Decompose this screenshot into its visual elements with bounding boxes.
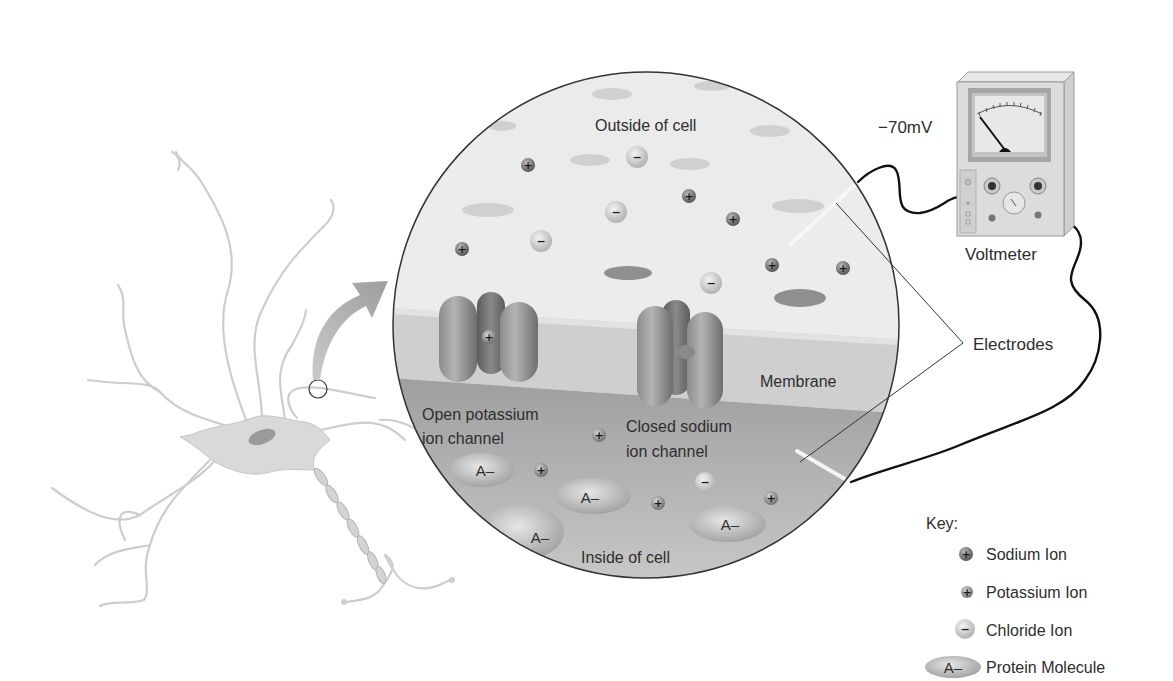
svg-text:+: +	[457, 243, 466, 256]
resting-potential-diagram: + + + + + + − − − − +	[0, 0, 1173, 681]
open-potassium-channel: +	[439, 292, 538, 382]
legend-key: Key: + Sodium Ion + Potassium Ion − Chlo…	[925, 515, 1105, 678]
svg-text:−: −	[700, 476, 709, 489]
key-item-chloride: − Chloride Ion	[955, 619, 1072, 639]
outside-of-cell-label: Outside of cell	[595, 117, 696, 134]
svg-text:+: +	[684, 190, 693, 203]
svg-text:−: −	[611, 206, 620, 219]
key-item-potassium: + Potassium Ion	[961, 584, 1087, 601]
closed-sodium-channel	[637, 300, 723, 408]
axon-terminal	[341, 599, 347, 605]
key-title: Key:	[926, 515, 958, 532]
membrane-label: Membrane	[760, 373, 837, 390]
myelinated-axon	[312, 467, 388, 585]
svg-text:Potassium Ion: Potassium Ion	[986, 584, 1087, 601]
svg-text:A–: A–	[531, 529, 550, 546]
magnified-membrane-view: + + + + + + − − − − +	[390, 70, 910, 590]
svg-text:+: +	[838, 262, 847, 275]
svg-text:A–: A–	[944, 659, 963, 676]
svg-text:A–: A–	[581, 489, 600, 506]
voltage-reading: −70mV	[878, 118, 933, 137]
svg-text:+: +	[962, 586, 971, 599]
key-item-protein: A– Protein Molecule	[925, 656, 1105, 678]
svg-text:+: +	[767, 259, 776, 272]
closed-channel-label-line1: Closed sodium	[626, 418, 732, 435]
svg-text:+: +	[653, 497, 662, 510]
key-item-sodium: + Sodium Ion	[959, 546, 1067, 563]
svg-text:+: +	[961, 548, 970, 561]
svg-text:A–: A–	[476, 462, 495, 479]
voltmeter-device	[957, 72, 1074, 236]
zoom-arrow-icon	[313, 281, 388, 380]
svg-text:+: +	[766, 492, 775, 505]
svg-text:Chloride Ion: Chloride Ion	[986, 622, 1072, 639]
open-channel-label-line1: Open potassium	[422, 406, 539, 423]
closed-channel-label-line2: ion channel	[626, 443, 708, 460]
svg-text:−: −	[706, 277, 715, 290]
svg-text:A–: A–	[721, 516, 740, 533]
svg-text:+: +	[484, 331, 493, 344]
open-channel-label-line2: ion channel	[422, 430, 504, 447]
svg-text:−: −	[536, 235, 545, 248]
svg-text:−: −	[960, 623, 969, 636]
svg-text:Sodium Ion: Sodium Ion	[986, 546, 1067, 563]
voltmeter-label: Voltmeter	[965, 245, 1037, 264]
svg-text:+: +	[523, 159, 532, 172]
svg-text:+: +	[536, 464, 545, 477]
svg-text:+: +	[728, 213, 737, 226]
axon-terminal	[449, 577, 455, 583]
svg-text:Protein Molecule: Protein Molecule	[986, 659, 1105, 676]
svg-text:+: +	[594, 429, 603, 442]
svg-text:−: −	[632, 151, 641, 164]
inside-of-cell-label: Inside of cell	[581, 549, 670, 566]
neuron-illustration	[52, 152, 450, 606]
electrodes-label: Electrodes	[973, 335, 1053, 354]
